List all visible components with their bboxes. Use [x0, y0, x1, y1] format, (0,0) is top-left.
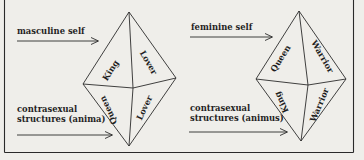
face-lover-upper: Lover: [138, 49, 160, 77]
archetype-octahedra-diagram: masculine self contrasexual structures (…: [0, 0, 364, 160]
anima-label-line2: structures (anima): [17, 114, 105, 124]
masculine-self-label: masculine self: [17, 26, 86, 36]
face-king-upper: King: [100, 58, 121, 82]
left-panel-masculine: masculine self contrasexual structures (…: [17, 12, 176, 146]
masculine-octahedron: [83, 12, 176, 146]
animus-label-line1: contrasexual: [190, 103, 250, 113]
face-king-lower: King: [272, 90, 291, 115]
face-warrior-upper: Warrior: [309, 37, 337, 75]
face-queen-upper: Queen: [268, 43, 292, 74]
figure-frame: [5, 0, 354, 153]
feminine-self-label: feminine self: [191, 22, 254, 32]
right-panel-feminine: feminine self contrasexual structures (a…: [189, 11, 346, 141]
animus-label-line2: structures (animus): [190, 113, 284, 123]
face-lover-lower: Lover: [134, 93, 154, 121]
anima-label-line1: contrasexual: [17, 104, 77, 114]
diagram-canvas: masculine self contrasexual structures (…: [0, 0, 364, 160]
